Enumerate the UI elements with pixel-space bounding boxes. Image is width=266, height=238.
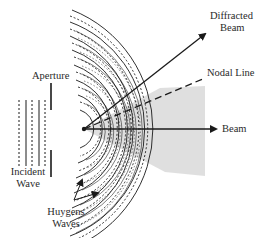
aperture-label: Aperture bbox=[32, 70, 69, 82]
diffracted-beam-label-line2: Beam bbox=[210, 22, 253, 34]
incident-wave-label-line2: Wave bbox=[8, 178, 48, 190]
huygens-waves-label-line1: Huygens bbox=[44, 206, 88, 218]
diagram-canvas bbox=[0, 0, 266, 238]
incident-wave-lines bbox=[19, 100, 45, 166]
incident-wave-label: Incident Wave bbox=[8, 166, 48, 190]
diffracted-beam-label-line1: Diffracted bbox=[210, 10, 253, 22]
diffraction-origin bbox=[82, 127, 86, 131]
nodal-line-label: Nodal Line bbox=[207, 67, 255, 79]
beam-label: Beam bbox=[222, 123, 247, 135]
diffracted-beam-label: Diffracted Beam bbox=[210, 10, 253, 34]
huygens-waves-label: Huygens Waves bbox=[44, 206, 88, 230]
huygens-waves-label-line2: Waves bbox=[44, 218, 88, 230]
diffraction-diagram: Aperture Incident Wave Huygens Waves Dif… bbox=[0, 0, 266, 238]
incident-wave-label-line1: Incident bbox=[8, 166, 48, 178]
